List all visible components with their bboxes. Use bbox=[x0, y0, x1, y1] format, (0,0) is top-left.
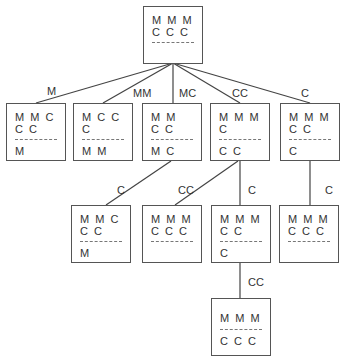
left-bank-row1: M M bbox=[151, 112, 175, 123]
right-bank: C bbox=[220, 248, 228, 259]
edge-root-n1 bbox=[36, 63, 173, 103]
right-bank: C bbox=[289, 146, 297, 157]
state-node-n4: M M M C C C bbox=[210, 103, 270, 161]
edge-label-mc: MC bbox=[179, 88, 196, 99]
state-node-n8: M M M C C C bbox=[211, 205, 271, 263]
river-divider bbox=[15, 139, 57, 140]
river-divider bbox=[220, 329, 262, 330]
left-bank-row2: C C bbox=[15, 124, 37, 135]
state-node-n2: M C C C M M bbox=[73, 103, 133, 161]
left-bank-row1: M M M bbox=[219, 112, 259, 123]
edge-label-cc: CC bbox=[232, 88, 248, 99]
river-divider bbox=[151, 241, 193, 242]
left-bank-row2: C bbox=[82, 124, 90, 135]
state-node-root: M M M C C C bbox=[143, 6, 203, 64]
river-divider bbox=[82, 139, 124, 140]
state-node-goal: M M M C C C bbox=[211, 298, 271, 356]
river-divider bbox=[220, 241, 262, 242]
river-divider bbox=[288, 241, 330, 242]
left-bank-row1: M C C bbox=[82, 112, 119, 123]
left-bank-row1: M M M bbox=[220, 313, 260, 324]
left-bank-row2: C C bbox=[80, 226, 102, 237]
left-bank-row2: C C bbox=[151, 124, 173, 135]
edge-label-cc-n7: CC bbox=[178, 185, 194, 196]
right-bank: M M bbox=[82, 146, 106, 157]
left-bank-cannibals: C C C bbox=[152, 27, 188, 38]
river-divider bbox=[152, 42, 194, 43]
edge-label-c-n8: C bbox=[248, 185, 256, 196]
edge-label-cc-goal: CC bbox=[248, 277, 264, 288]
state-node-n1: M M C C C M bbox=[6, 103, 66, 161]
state-node-n5: M M M C C C bbox=[280, 103, 340, 161]
state-node-n7: M M M C C C bbox=[142, 205, 202, 263]
river-divider bbox=[219, 139, 261, 140]
state-node-n9: M M M C C C bbox=[279, 205, 339, 263]
left-bank-row1: M M M bbox=[288, 214, 328, 225]
river-divider bbox=[151, 139, 193, 140]
left-bank-row1: M M M bbox=[289, 112, 329, 123]
edge-n3-n6 bbox=[106, 161, 171, 205]
edge-n4-n7 bbox=[175, 161, 238, 205]
right-bank: C C bbox=[219, 146, 241, 157]
state-node-n3: M M C C M C bbox=[142, 103, 202, 161]
right-bank: M bbox=[15, 146, 24, 157]
left-bank-row2: C C C bbox=[288, 226, 324, 237]
edge-label-c-n9: C bbox=[325, 185, 333, 196]
left-bank-row2: C bbox=[219, 124, 227, 135]
edge-label-m: M bbox=[47, 86, 56, 97]
left-bank-row2: C C bbox=[220, 226, 242, 237]
right-bank: M bbox=[80, 248, 89, 259]
edge-label-c-n6: C bbox=[117, 185, 125, 196]
right-bank: M C bbox=[151, 146, 174, 157]
river-divider bbox=[289, 139, 331, 140]
left-bank-row1: M M M bbox=[220, 214, 260, 225]
left-bank-row1: M M C bbox=[80, 214, 119, 225]
edge-label-mm: MM bbox=[133, 88, 151, 99]
left-bank-row1: M M M bbox=[151, 214, 191, 225]
state-node-n6: M M C C C M bbox=[71, 205, 131, 263]
right-bank: C C C bbox=[220, 336, 256, 347]
left-bank-row1: M M C bbox=[15, 112, 54, 123]
left-bank-row2: C C bbox=[289, 124, 311, 135]
river-divider bbox=[80, 241, 122, 242]
edge-label-c: C bbox=[301, 88, 309, 99]
left-bank-missionaries: M M M bbox=[152, 15, 192, 26]
left-bank-row2: C C C bbox=[151, 226, 187, 237]
